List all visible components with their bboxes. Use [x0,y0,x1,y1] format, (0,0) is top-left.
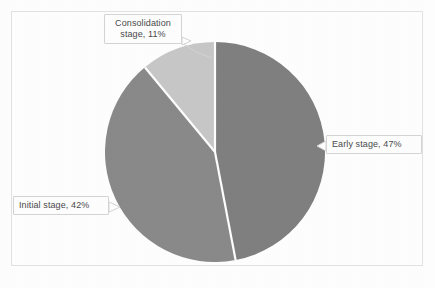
data-label-initial-stage[interactable]: Initial stage, 42% [13,196,109,215]
pie-slice-early-stage[interactable] [215,42,325,260]
data-label-early-stage[interactable]: Early stage, 47% [326,135,422,154]
pie-svg [105,42,325,262]
pie-chart [105,42,325,262]
chart-screenshot: Consolidation stage, 11% Early stage, 47… [0,0,435,288]
figure-caption [88,277,348,288]
data-label-consolidation-stage[interactable]: Consolidation stage, 11% [104,14,182,44]
